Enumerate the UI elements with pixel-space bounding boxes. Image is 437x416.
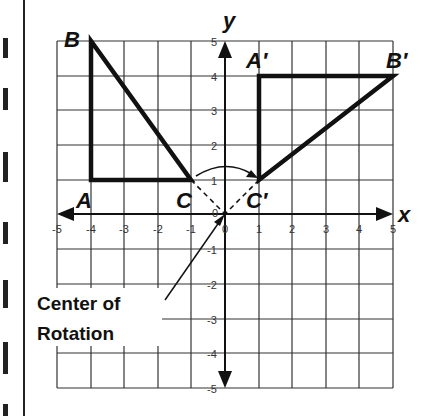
annotation-line1: Center of [37, 293, 121, 314]
svg-text:-3: -3 [207, 314, 217, 326]
svg-text:5: 5 [211, 36, 217, 48]
svg-text:1: 1 [256, 223, 262, 235]
svg-text:-4: -4 [207, 348, 217, 360]
svg-text:1: 1 [211, 175, 217, 187]
svg-text:4: 4 [356, 223, 362, 235]
svg-text:-5: -5 [207, 383, 217, 395]
vertex-label-b: B [64, 27, 80, 52]
x-tick-labels: -5 -4 -3 -2 -1 0 1 2 3 4 5 [52, 223, 396, 235]
y-axis-up-arrow [218, 41, 232, 58]
x-axis-label: x [397, 202, 411, 227]
coordinate-plane: x y -5 -4 -3 -2 -1 0 1 2 3 4 5 5 4 3 2 1… [0, 0, 437, 416]
vertex-label-b-prime: B′ [386, 48, 409, 73]
svg-text:-2: -2 [153, 223, 163, 235]
svg-text:5: 5 [390, 223, 396, 235]
svg-text:2: 2 [289, 223, 295, 235]
svg-text:-2: -2 [207, 279, 217, 291]
svg-text:-1: -1 [207, 244, 217, 256]
origin-label: 0 [212, 207, 218, 219]
x-axis-right-arrow [376, 207, 393, 221]
annotation-line2: Rotation [37, 323, 114, 344]
x-axis-left-arrow [57, 207, 74, 221]
svg-text:3: 3 [323, 223, 329, 235]
svg-text:3: 3 [211, 105, 217, 117]
y-axis-label: y [222, 8, 237, 33]
svg-text:2: 2 [211, 140, 217, 152]
svg-text:-5: -5 [52, 223, 62, 235]
vertex-label-c-prime: C′ [246, 188, 269, 213]
y-axis-down-arrow [218, 371, 232, 388]
svg-text:-1: -1 [186, 223, 196, 235]
vertex-label-a: A [75, 188, 92, 213]
vertex-label-c: C [176, 188, 193, 213]
svg-text:-4: -4 [86, 223, 96, 235]
svg-text:4: 4 [211, 71, 217, 83]
svg-text:-3: -3 [119, 223, 129, 235]
svg-text:0: 0 [222, 223, 228, 235]
vertex-label-a-prime: A′ [245, 48, 269, 73]
